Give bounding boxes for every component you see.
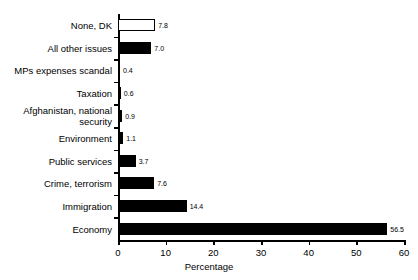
category-label: Economy bbox=[0, 223, 112, 234]
bar-value-label: 3.7 bbox=[139, 157, 149, 164]
x-axis-tick-label: 40 bbox=[303, 247, 314, 258]
x-axis-tick-label: 50 bbox=[351, 247, 362, 258]
bar-value-label: 7.0 bbox=[154, 44, 164, 51]
bar: 56.5 bbox=[118, 223, 387, 235]
y-axis-tick bbox=[114, 59, 118, 61]
y-axis-tick bbox=[114, 37, 118, 39]
bar-value-label: 1.1 bbox=[126, 135, 136, 142]
x-axis-tick bbox=[118, 240, 120, 245]
category-label: MPs expenses scandal bbox=[0, 65, 112, 76]
bar-row: MPs expenses scandal0.4 bbox=[118, 59, 404, 82]
bar-value-label: 0.9 bbox=[125, 112, 135, 119]
bar-row: Environment1.1 bbox=[118, 127, 404, 150]
bar-row: All other issues7.0 bbox=[118, 37, 404, 60]
bar-value-label: 0.6 bbox=[124, 90, 134, 97]
y-axis-tick bbox=[114, 172, 118, 174]
bar: 7.6 bbox=[118, 177, 154, 189]
x-axis-tick-label: 30 bbox=[256, 247, 267, 258]
x-axis-tick bbox=[404, 240, 406, 245]
x-axis-tick bbox=[261, 240, 263, 245]
bar: 0.4 bbox=[118, 64, 120, 76]
y-axis-tick bbox=[114, 150, 118, 152]
bar-value-label: 0.4 bbox=[123, 67, 133, 74]
bar: 3.7 bbox=[118, 155, 136, 167]
bar: 14.4 bbox=[118, 200, 187, 212]
bar-row: Afghanistan, national security0.9 bbox=[118, 104, 404, 127]
bar-row: Taxation0.6 bbox=[118, 82, 404, 105]
bar-chart: None, DK7.8All other issues7.0MPs expens… bbox=[0, 0, 418, 280]
y-axis-tick bbox=[114, 82, 118, 84]
x-axis-tick bbox=[309, 240, 311, 245]
bar: 7.0 bbox=[118, 42, 151, 54]
bar-row: Economy56.5 bbox=[118, 217, 404, 240]
bar-value-label: 7.6 bbox=[157, 180, 167, 187]
x-axis-tick bbox=[166, 240, 168, 245]
y-axis-tick bbox=[114, 217, 118, 219]
x-axis-tick bbox=[213, 240, 215, 245]
x-axis-tick-label: 60 bbox=[399, 247, 410, 258]
category-label: None, DK bbox=[0, 20, 112, 31]
bar: 7.8 bbox=[118, 19, 155, 31]
bar-row: Immigration14.4 bbox=[118, 195, 404, 218]
x-axis-tick-label: 20 bbox=[208, 247, 219, 258]
bar-row: None, DK7.8 bbox=[118, 14, 404, 37]
x-axis-tick-label: 0 bbox=[115, 247, 120, 258]
category-label: Environment bbox=[0, 133, 112, 144]
bar-value-label: 56.5 bbox=[390, 225, 404, 232]
category-label: Afghanistan, national security bbox=[0, 105, 112, 127]
bar: 0.6 bbox=[118, 87, 121, 99]
category-label: All other issues bbox=[0, 42, 112, 53]
x-axis-tick bbox=[356, 240, 358, 245]
x-axis-title: Percentage bbox=[0, 261, 418, 272]
category-label: Immigration bbox=[0, 201, 112, 212]
bar-row: Public services3.7 bbox=[118, 150, 404, 173]
x-axis-tick-label: 10 bbox=[160, 247, 171, 258]
y-axis-tick bbox=[114, 127, 118, 129]
category-label: Public services bbox=[0, 155, 112, 166]
plot-area: None, DK7.8All other issues7.0MPs expens… bbox=[118, 14, 404, 240]
bar-row: Crime, terrorism7.6 bbox=[118, 172, 404, 195]
category-label: Crime, terrorism bbox=[0, 178, 112, 189]
category-label: Taxation bbox=[0, 88, 112, 99]
bar-value-label: 14.4 bbox=[190, 203, 204, 210]
bar-value-label: 7.8 bbox=[158, 22, 168, 29]
y-axis-tick bbox=[114, 195, 118, 197]
bar: 1.1 bbox=[118, 132, 123, 144]
bar: 0.9 bbox=[118, 110, 122, 122]
y-axis-tick bbox=[114, 104, 118, 106]
